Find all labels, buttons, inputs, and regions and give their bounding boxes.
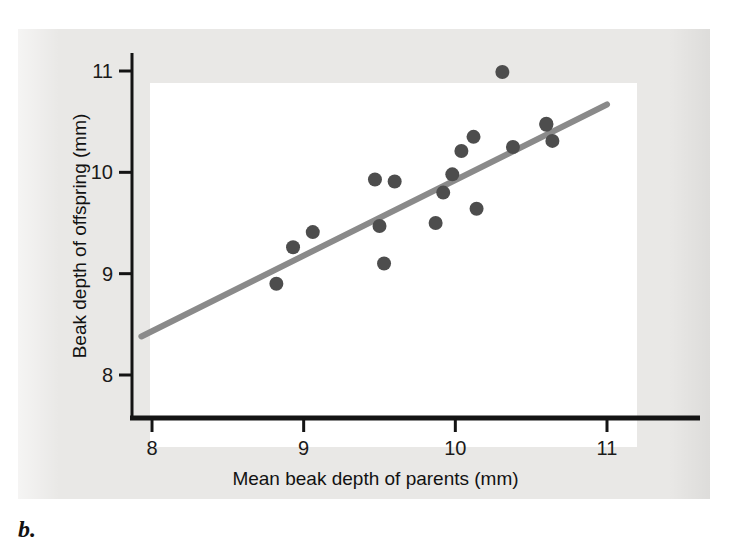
- data-points: [269, 65, 559, 291]
- data-point: [436, 186, 450, 200]
- data-point: [454, 144, 468, 158]
- data-point: [377, 257, 391, 271]
- data-point: [286, 240, 300, 254]
- x-tick-label-11: 11: [582, 438, 632, 458]
- data-point: [445, 167, 459, 181]
- data-point: [495, 65, 509, 79]
- data-point: [306, 225, 320, 239]
- data-point: [467, 130, 481, 144]
- y-tick-label-11: 11: [67, 61, 113, 81]
- data-point: [269, 277, 283, 291]
- data-point: [539, 118, 553, 132]
- y-axis-title: Beak depth of offspring (mm): [69, 86, 91, 386]
- x-axis-title: Mean beak depth of parents (mm): [132, 468, 619, 490]
- data-point: [506, 140, 520, 154]
- data-point: [373, 219, 387, 233]
- panel-caption: b.: [18, 516, 36, 543]
- x-tick-label-9: 9: [279, 438, 329, 458]
- regression-trendline: [141, 104, 607, 336]
- data-point: [545, 134, 559, 148]
- x-tick-label-10: 10: [430, 438, 480, 458]
- axes: [119, 53, 700, 432]
- data-point: [470, 202, 484, 216]
- x-tick-label-8: 8: [127, 438, 177, 458]
- data-point: [388, 174, 402, 188]
- data-point: [368, 172, 382, 186]
- data-point: [429, 216, 443, 230]
